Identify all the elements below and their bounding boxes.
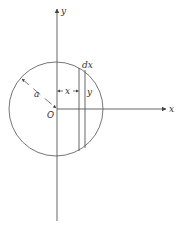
x-axis-label: x xyxy=(169,104,174,114)
strip-width-label: dx xyxy=(82,60,93,70)
strip-height-label: y xyxy=(86,87,93,97)
radius-label: a xyxy=(34,89,39,99)
circle-strip-diagram: y x O a dx x y xyxy=(0,0,182,231)
origin-label: O xyxy=(47,110,54,120)
y-axis-label: y xyxy=(60,6,67,16)
strip-distance-label: x xyxy=(65,86,70,96)
